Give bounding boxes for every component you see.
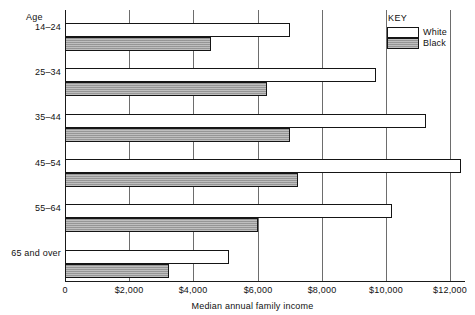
bar-black-5	[65, 264, 169, 278]
x-tick-label: $8,000	[308, 285, 337, 295]
category-label: 65 and over	[1, 248, 61, 258]
legend-label-black: Black	[423, 38, 446, 48]
bar-white-3	[65, 159, 461, 173]
x-tick-label: $2,000	[115, 285, 144, 295]
bar-white-5	[65, 250, 229, 264]
bar-white-0	[65, 23, 290, 37]
bar-white-2	[65, 114, 426, 128]
gridline-6000	[258, 10, 259, 282]
legend-label-white: White	[423, 27, 447, 37]
bar-black-4	[65, 218, 258, 232]
category-labels-group: 14–2425–3435–4445–5455–6465 and over	[0, 10, 61, 282]
bar-black-1	[65, 82, 267, 96]
legend-title: KEY	[388, 13, 407, 23]
bar-black-2	[65, 128, 290, 142]
bar-white-1	[65, 68, 376, 82]
legend: KEY White Black	[386, 13, 462, 58]
x-tick-label: 0	[62, 285, 67, 295]
category-label: 35–44	[1, 112, 61, 122]
category-label: 25–34	[1, 67, 61, 77]
x-axis-title: Median annual family income	[192, 301, 314, 311]
x-tick-label: $10,000	[369, 285, 403, 295]
category-label: 45–54	[1, 158, 61, 168]
legend-swatch-black	[387, 38, 419, 49]
x-tick-label: $4,000	[179, 285, 208, 295]
category-label: 55–64	[1, 203, 61, 213]
x-axis-line	[65, 281, 465, 282]
bar-black-0	[65, 37, 211, 51]
x-tick-label: $12,000	[433, 285, 467, 295]
x-tick-label: $6,000	[244, 285, 273, 295]
bar-black-3	[65, 173, 298, 187]
category-label: 14–24	[1, 22, 61, 32]
legend-swatch-white	[387, 27, 419, 38]
bar-chart: Age 14–2425–3435–4445–5455–6465 and over…	[0, 0, 475, 315]
bar-white-4	[65, 204, 392, 218]
x-axis-title-wrap: Median annual family income	[0, 301, 475, 311]
gridline-8000	[322, 10, 323, 282]
